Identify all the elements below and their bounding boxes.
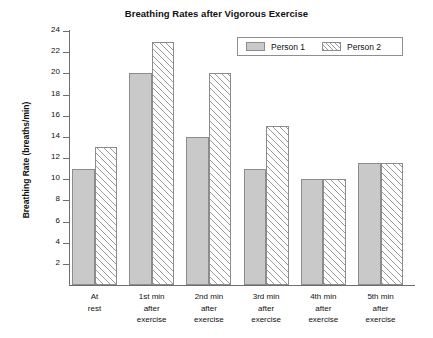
y-tick-label-wrap: 8 — [36, 195, 60, 205]
y-tick-label-wrap: 2 — [36, 259, 60, 269]
y-tick-mark — [63, 31, 70, 32]
x-axis-group-label: Atrest — [62, 291, 127, 314]
x-axis-label-line: 4th min — [291, 291, 356, 303]
y-tick-mark — [63, 158, 70, 159]
legend-entry-person-1[interactable]: Person 1 — [246, 38, 305, 55]
y-tick-mark — [63, 95, 70, 96]
y-tick-label: 12 — [38, 153, 60, 161]
bar-person-1-group-6 — [358, 163, 381, 285]
y-tick-label-wrap: 24 — [36, 26, 60, 36]
x-axis-group-label: 5th minafterexercise — [348, 291, 413, 326]
y-tick-label: 10 — [38, 174, 60, 182]
legend-label: Person 2 — [347, 42, 381, 52]
x-axis-group-label: 4th minafterexercise — [291, 291, 356, 326]
bar-person-1-group-4 — [244, 169, 267, 285]
y-tick-mark — [63, 73, 70, 74]
y-tick-mark — [63, 264, 70, 265]
y-tick-label-wrap: 20 — [36, 68, 60, 78]
y-axis-label: Breathing Rate (breaths/min) — [21, 50, 31, 270]
y-tick-label: 24 — [38, 26, 60, 34]
chart-title: Breathing Rates after Vigorous Exercise — [0, 8, 433, 19]
legend-swatch-icon — [322, 42, 341, 51]
x-axis-label-line: after — [234, 303, 299, 315]
x-axis-label-line: 3rd min — [234, 291, 299, 303]
bar-person-2-group-5 — [323, 179, 346, 285]
x-axis-label-line: rest — [62, 303, 127, 315]
legend-label: Person 1 — [271, 42, 305, 52]
x-axis-label-line: exercise — [291, 314, 356, 326]
bar-person-2-group-6 — [381, 163, 404, 285]
y-tick-mark — [63, 137, 70, 138]
y-tick-label: 22 — [38, 47, 60, 55]
chart-figure: Breathing Rates after Vigorous Exercise … — [0, 0, 433, 338]
y-tick-label: 4 — [38, 238, 60, 246]
x-axis-group-label: 1st minafterexercise — [119, 291, 184, 326]
y-tick-label: 2 — [38, 259, 60, 267]
y-tick-mark — [63, 116, 70, 117]
x-axis-label-line: 1st min — [119, 291, 184, 303]
x-axis-line — [69, 285, 415, 286]
y-tick-label-wrap: 4 — [36, 238, 60, 248]
y-tick-mark — [63, 179, 70, 180]
x-axis-label-line: after — [291, 303, 356, 315]
x-axis-label-line: 2nd min — [176, 291, 241, 303]
y-tick-mark — [63, 243, 70, 244]
y-tick-label-wrap: 10 — [36, 174, 60, 184]
y-tick-label: 18 — [38, 90, 60, 98]
x-axis-label-line: after — [176, 303, 241, 315]
y-tick-label-wrap: 12 — [36, 153, 60, 163]
y-tick-mark — [63, 200, 70, 201]
y-tick-label-wrap: 16 — [36, 111, 60, 121]
x-axis-label-line: exercise — [234, 314, 299, 326]
y-tick-mark — [63, 52, 70, 53]
bar-person-1-group-1 — [72, 169, 95, 285]
y-tick-label: 14 — [38, 132, 60, 140]
x-axis-label-line: At — [62, 291, 127, 303]
x-axis-label-line: 5th min — [348, 291, 413, 303]
legend-swatch-icon — [246, 42, 265, 51]
bar-person-2-group-4 — [266, 126, 289, 285]
y-tick-label-wrap: 6 — [36, 217, 60, 227]
x-axis-label-line: after — [119, 303, 184, 315]
y-tick-label: 8 — [38, 195, 60, 203]
x-axis-label-line: exercise — [348, 314, 413, 326]
y-tick-label: 20 — [38, 68, 60, 76]
bar-person-1-group-3 — [186, 137, 209, 285]
x-axis-group-label: 2nd minafterexercise — [176, 291, 241, 326]
bar-person-1-group-5 — [301, 179, 324, 285]
bars-layer — [70, 20, 420, 285]
bar-person-2-group-3 — [209, 73, 232, 285]
y-tick-label: 16 — [38, 111, 60, 119]
x-axis-label-line: exercise — [176, 314, 241, 326]
y-tick-mark — [63, 222, 70, 223]
chart-legend[interactable]: Person 1Person 2 — [237, 37, 403, 56]
bar-person-2-group-2 — [152, 42, 175, 285]
x-axis-label-line: after — [348, 303, 413, 315]
y-tick-label-wrap: 18 — [36, 90, 60, 100]
y-tick-label: 6 — [38, 217, 60, 225]
bar-person-2-group-1 — [95, 147, 118, 285]
x-axis-group-label: 3rd minafterexercise — [234, 291, 299, 326]
y-tick-label-wrap: 14 — [36, 132, 60, 142]
legend-entry-person-2[interactable]: Person 2 — [322, 38, 381, 55]
bar-person-1-group-2 — [129, 73, 152, 285]
y-tick-label-wrap: 22 — [36, 47, 60, 57]
x-axis-label-line: exercise — [119, 314, 184, 326]
